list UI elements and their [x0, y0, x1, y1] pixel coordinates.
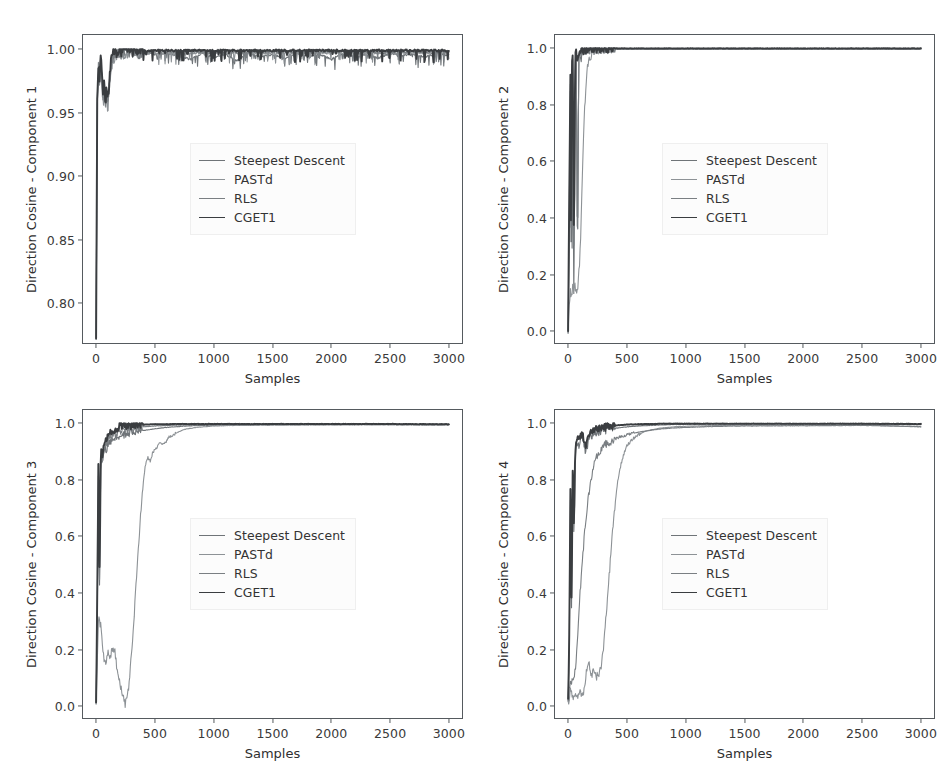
x-tick-label: 2000: [315, 351, 347, 366]
legend-item[interactable]: Steepest Descent: [199, 526, 345, 545]
legend-component-1: Steepest DescentPASTdRLSCGET1: [190, 143, 356, 235]
y-tick-label: 0.0: [527, 699, 547, 714]
legend-item[interactable]: RLS: [671, 564, 817, 583]
subplot-component-3: 0.00.20.40.60.81.00500100015002000250030…: [0, 383, 472, 767]
legend-item[interactable]: CGET1: [671, 208, 817, 227]
x-tick-label: 0: [92, 351, 100, 366]
legend-label: PASTd: [234, 172, 273, 187]
x-tick-label: 500: [143, 726, 167, 741]
y-tick-label: 0.8: [55, 472, 75, 487]
x-axis-label: Samples: [717, 746, 773, 761]
y-tick-mark: [78, 423, 82, 424]
y-tick-label: 0.4: [527, 586, 547, 601]
x-tick-mark: [390, 344, 391, 348]
legend-label: RLS: [234, 566, 258, 581]
y-tick-mark: [550, 592, 554, 593]
x-tick-mark: [448, 719, 449, 723]
legend-label: CGET1: [234, 585, 276, 600]
x-axis-label: Samples: [245, 746, 301, 761]
y-tick-mark: [550, 104, 554, 105]
x-tick-mark: [154, 344, 155, 348]
legend-item[interactable]: RLS: [199, 189, 345, 208]
legend-label: Steepest Descent: [234, 528, 345, 543]
legend-item[interactable]: Steepest Descent: [671, 526, 817, 545]
x-tick-mark: [744, 719, 745, 723]
x-tick-label: 0: [564, 726, 572, 741]
x-tick-label: 3000: [433, 351, 465, 366]
y-tick-label: 0.90: [47, 169, 75, 184]
y-tick-label: 0.6: [527, 154, 547, 169]
x-tick-label: 1500: [256, 351, 288, 366]
x-tick-label: 2500: [374, 351, 406, 366]
legend-item[interactable]: PASTd: [671, 170, 817, 189]
y-tick-label: 1.0: [527, 41, 547, 56]
x-tick-label: 1500: [728, 351, 760, 366]
y-tick-mark: [78, 706, 82, 707]
subplot-component-4: 0.00.20.40.60.81.00500100015002000250030…: [472, 383, 944, 767]
y-tick-mark: [550, 536, 554, 537]
y-tick-label: 0.0: [55, 699, 75, 714]
x-tick-label: 2500: [846, 351, 878, 366]
legend-line-icon: [671, 554, 697, 555]
legend-item[interactable]: PASTd: [671, 545, 817, 564]
x-tick-mark: [568, 344, 569, 348]
legend-component-3: Steepest DescentPASTdRLSCGET1: [190, 518, 356, 610]
x-tick-mark: [390, 719, 391, 723]
y-tick-mark: [78, 649, 82, 650]
subplot-component-2: 0.00.20.40.60.81.00500100015002000250030…: [472, 0, 944, 384]
legend-label: PASTd: [706, 547, 745, 562]
x-tick-mark: [96, 344, 97, 348]
x-tick-mark: [626, 719, 627, 723]
legend-line-icon: [671, 573, 697, 574]
y-axis-label: Direction Cosine - Component 1: [24, 85, 39, 292]
legend-label: Steepest Descent: [706, 528, 817, 543]
axes-component-3: 0.00.20.40.60.81.00500100015002000250030…: [82, 409, 463, 719]
legend-item[interactable]: PASTd: [199, 170, 345, 189]
y-tick-label: 0.2: [527, 267, 547, 282]
legend-item[interactable]: RLS: [199, 564, 345, 583]
legend-line-icon: [199, 535, 225, 536]
x-tick-label: 1000: [670, 726, 702, 741]
x-tick-mark: [920, 344, 921, 348]
legend-line-icon: [671, 535, 697, 536]
legend-line-icon: [199, 160, 225, 161]
legend-item[interactable]: CGET1: [199, 583, 345, 602]
x-tick-mark: [272, 719, 273, 723]
legend-item[interactable]: Steepest Descent: [671, 151, 817, 170]
legend-label: Steepest Descent: [234, 153, 345, 168]
x-tick-mark: [331, 344, 332, 348]
figure-canvas: 0.800.850.900.951.0005001000150020002500…: [0, 0, 944, 767]
x-tick-label: 2000: [787, 726, 819, 741]
x-tick-label: 1500: [728, 726, 760, 741]
legend-label: CGET1: [234, 210, 276, 225]
x-tick-mark: [272, 344, 273, 348]
x-tick-label: 1000: [198, 351, 230, 366]
x-tick-mark: [685, 344, 686, 348]
y-axis-label: Direction Cosine - Component 3: [24, 460, 39, 667]
legend-item[interactable]: CGET1: [671, 583, 817, 602]
legend-item[interactable]: RLS: [671, 189, 817, 208]
y-tick-label: 0.80: [47, 296, 75, 311]
y-tick-mark: [78, 112, 82, 113]
x-tick-label: 3000: [905, 351, 937, 366]
x-tick-label: 2000: [787, 351, 819, 366]
legend-line-icon: [199, 217, 225, 218]
x-tick-mark: [213, 344, 214, 348]
y-tick-mark: [550, 423, 554, 424]
axes-component-2: 0.00.20.40.60.81.00500100015002000250030…: [554, 34, 935, 344]
y-tick-label: 0.95: [47, 105, 75, 120]
y-tick-label: 0.6: [527, 529, 547, 544]
legend-item[interactable]: CGET1: [199, 208, 345, 227]
legend-label: PASTd: [706, 172, 745, 187]
y-tick-mark: [550, 479, 554, 480]
y-tick-label: 1.0: [55, 416, 75, 431]
legend-line-icon: [199, 554, 225, 555]
legend-item[interactable]: PASTd: [199, 545, 345, 564]
y-tick-label: 1.00: [47, 42, 75, 57]
y-tick-mark: [550, 217, 554, 218]
y-tick-label: 0.2: [527, 642, 547, 657]
legend-item[interactable]: Steepest Descent: [199, 151, 345, 170]
y-tick-mark: [78, 239, 82, 240]
y-tick-label: 0.2: [55, 642, 75, 657]
x-tick-mark: [626, 344, 627, 348]
